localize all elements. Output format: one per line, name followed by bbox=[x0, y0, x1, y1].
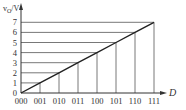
x-tick-label: 101 bbox=[110, 96, 123, 106]
transfer-line bbox=[21, 22, 154, 93]
y-tick-label: 6 bbox=[13, 27, 17, 37]
y-tick-label: 5 bbox=[13, 38, 17, 48]
x-tick-label: 001 bbox=[34, 96, 47, 106]
y-tick-label: 2 bbox=[13, 68, 17, 78]
y-tick-labels: 01234567 bbox=[13, 17, 18, 98]
y-tick-label: 1 bbox=[13, 78, 17, 88]
x-tick-label: 000 bbox=[15, 96, 28, 106]
x-tick-label: 100 bbox=[91, 96, 104, 106]
x-tick-label: 111 bbox=[148, 96, 160, 106]
x-tick-label: 110 bbox=[129, 96, 141, 106]
y-tick-label: 3 bbox=[13, 58, 17, 68]
y-axis-label: vO/V bbox=[3, 4, 20, 14]
y-axis-arrow-icon bbox=[19, 3, 23, 10]
x-tick-label: 010 bbox=[53, 96, 66, 106]
y-tick-label: 7 bbox=[13, 17, 17, 27]
x-axis-arrow-icon bbox=[160, 91, 167, 95]
dac-transfer-chart: 01234567 000001010011100101110111 vO/V D bbox=[0, 0, 186, 110]
axes bbox=[19, 3, 167, 95]
x-tick-label: 011 bbox=[72, 96, 84, 106]
x-axis-label: D bbox=[168, 87, 177, 98]
x-tick-labels: 000001010011100101110111 bbox=[15, 96, 160, 106]
y-tick-label: 4 bbox=[13, 48, 18, 58]
